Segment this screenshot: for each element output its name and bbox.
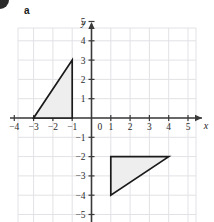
y-tick-label: −1: [75, 133, 85, 143]
figure-canvas: a −5−4−3−2−11234554321−1−2−3−4−50xy: [0, 0, 214, 222]
x-tick-label: −1: [67, 122, 77, 132]
x-tick-label: −3: [29, 122, 39, 132]
x-tick-label: 1: [108, 122, 113, 132]
x-tick-label: 4: [166, 122, 171, 132]
coordinate-plane: −5−4−3−2−11234554321−1−2−3−4−50xy: [0, 0, 214, 222]
x-axis-label: x: [203, 120, 209, 131]
y-tick-label: −4: [75, 191, 85, 201]
y-axis-arrow-icon: [88, 22, 94, 29]
origin-label: 0: [98, 122, 103, 132]
y-tick-label: −5: [75, 210, 85, 220]
x-tick-label: −4: [9, 122, 19, 132]
x-tick-label: 2: [128, 122, 133, 132]
y-tick-label: 1: [81, 94, 86, 104]
y-tick-label: −2: [75, 152, 85, 162]
y-tick-label: −3: [75, 171, 85, 181]
x-tick-label: 3: [147, 122, 152, 132]
y-tick-label: 4: [81, 36, 86, 46]
y-tick-label: 2: [81, 75, 86, 85]
x-tick-label: −2: [48, 122, 58, 132]
y-axis-label: y: [80, 17, 86, 28]
x-axis-arrow-icon: [195, 115, 202, 121]
y-tick-label: 3: [81, 56, 86, 66]
x-tick-label: 5: [186, 122, 191, 132]
